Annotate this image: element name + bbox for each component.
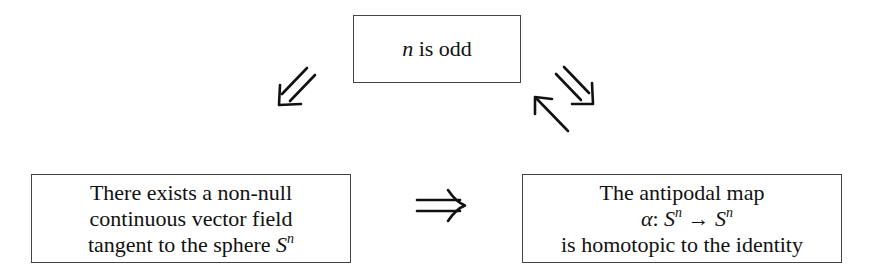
double-arrow-top-to-left-icon: [279, 68, 315, 105]
arrows-layer: [0, 0, 877, 279]
double-arrow-left-to-right-icon: [417, 190, 465, 221]
double-arrow-top-to-right-icon: [556, 67, 593, 104]
arrow-right-to-top-icon: [535, 97, 568, 131]
